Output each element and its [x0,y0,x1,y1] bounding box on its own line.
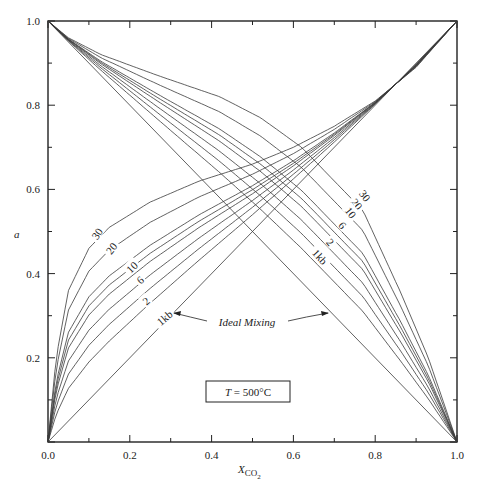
y-tick-label: 0.8 [26,99,40,111]
ideal-mixing-annotation: Ideal Mixing [218,316,276,328]
x-tick-label: 0.6 [287,449,301,461]
x-tick-label: 0.8 [368,449,382,461]
y-tick-label: 1.0 [26,15,40,27]
y-axis-label: a [14,228,20,240]
activity-composition-chart: 0.00.20.40.60.81.00.20.40.60.81.03020106… [0,0,477,490]
x-tick-label: 1.0 [450,449,464,461]
ideal-mixing-label: Ideal Mixing [218,316,276,328]
y-tick-label: 0.4 [26,268,40,280]
temperature-label: T = 500°C [225,386,271,398]
y-tick-label: 0.6 [26,183,40,195]
x-tick-label: 0.2 [123,449,137,461]
x-tick-label: 0.0 [41,449,55,461]
y-tick-label: 0.2 [26,352,40,364]
arrowhead-right-icon [321,311,329,316]
temperature-box: T = 500°C [206,381,290,402]
x-axis-label: XCO2 [237,463,261,481]
x-tick-label: 0.4 [205,449,219,461]
